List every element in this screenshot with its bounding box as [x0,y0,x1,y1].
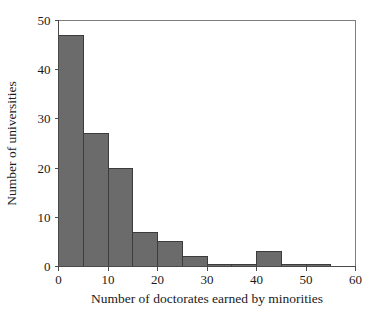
x-tick-label: 20 [151,272,164,287]
histogram-bar [257,252,282,267]
x-tick-label: 60 [349,272,362,287]
x-tick-label: 0 [55,272,62,287]
chart-figure: 010203040506001020304050Number of doctor… [0,0,375,319]
y-tick-label: 30 [38,111,51,126]
x-tick-label: 50 [300,272,313,287]
y-tick-label: 20 [38,161,51,176]
histogram-bar [158,242,183,267]
histogram-bar [108,168,133,266]
histogram-bar [182,257,207,267]
histogram-chart: 010203040506001020304050Number of doctor… [0,0,375,319]
histogram-bar [133,232,158,266]
histogram-bar [83,134,108,267]
y-tick-label: 50 [38,13,51,28]
y-tick-label: 10 [38,210,51,225]
y-tick-label: 40 [38,62,51,77]
x-axis-title: Number of doctorates earned by minoritie… [91,291,323,306]
x-tick-label: 10 [102,272,115,287]
y-axis-title: Number of universities [4,81,19,205]
y-tick-label: 0 [44,259,51,274]
histogram-bar [59,35,84,266]
x-tick-label: 40 [250,272,263,287]
x-tick-label: 30 [201,272,214,287]
